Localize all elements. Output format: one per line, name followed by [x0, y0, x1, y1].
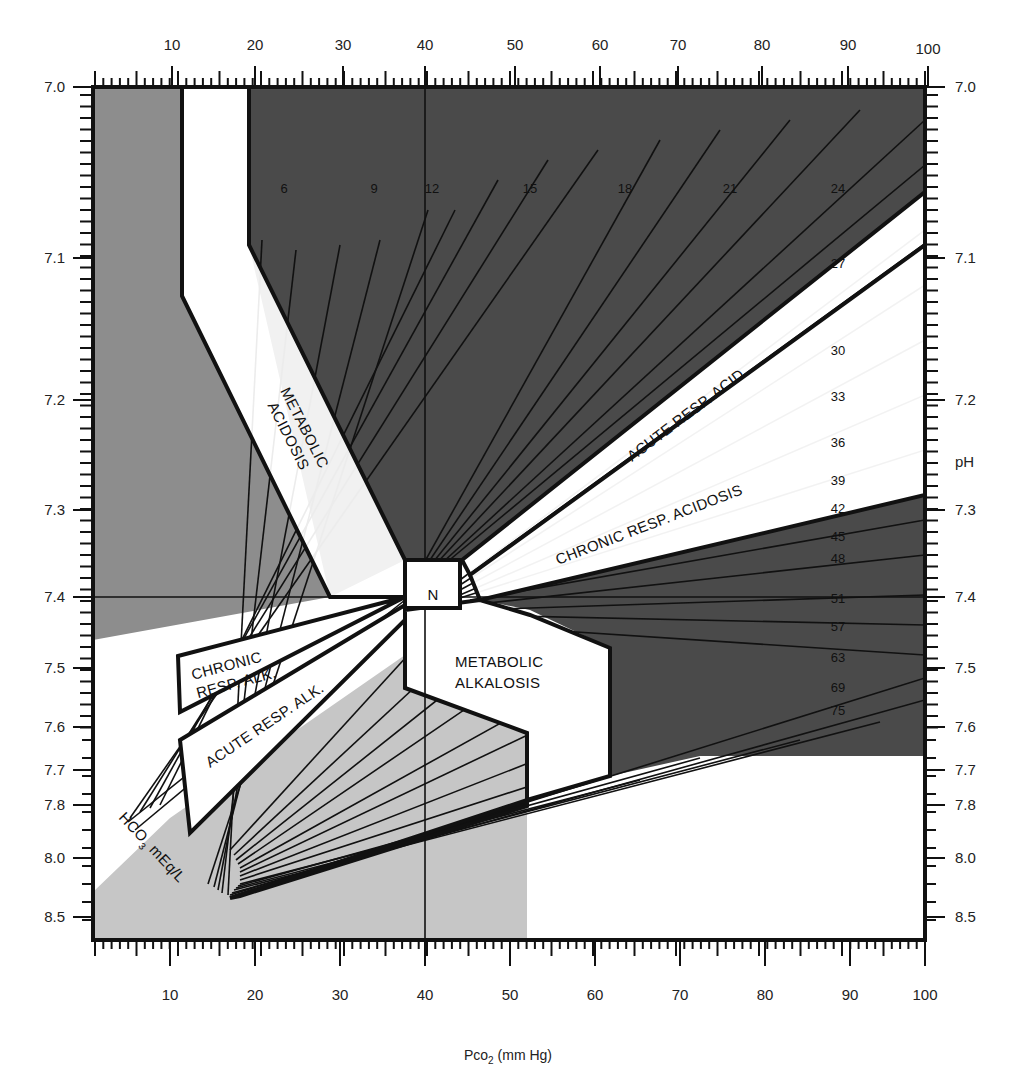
bottom-x-tick-label: 60	[587, 986, 604, 1003]
left-y-tick-label: 7.4	[44, 588, 65, 605]
top-x-tick-label: 90	[840, 36, 857, 53]
left-y-tick-label: 7.3	[44, 501, 65, 518]
isopleth-label: 9	[370, 181, 377, 196]
isopleth-label: 69	[831, 680, 845, 695]
left-y-tick-label: 8.0	[44, 849, 65, 866]
isopleth-label: 48	[831, 551, 845, 566]
right-y-tick-label: 7.1	[955, 249, 976, 266]
left-y-tick-label: 7.2	[44, 391, 65, 408]
left-y-tick-label: 8.5	[44, 908, 65, 925]
bottom-x-axis-labels: 10 20 30 40 50 60 70 80 90 100	[162, 986, 938, 1003]
bottom-x-tick-label: 70	[672, 986, 689, 1003]
right-y-tick-label: 7.3	[955, 501, 976, 518]
right-y-tick-label: 7.7	[955, 761, 976, 778]
top-x-tick-label: 30	[335, 36, 352, 53]
acid-base-nomogram: N 10 20 30 40 50 60 70 80 90 100 10 20 3…	[0, 0, 1017, 1082]
isopleth-label: 39	[831, 473, 845, 488]
right-y-tick-label: 7.5	[955, 659, 976, 676]
isopleth-label: 30	[831, 343, 845, 358]
isopleth-label: 51	[831, 591, 845, 606]
right-y-axis-title: pH	[955, 453, 974, 470]
right-y-tick-label: 7.2	[955, 391, 976, 408]
left-y-tick-label: 7.0	[44, 78, 65, 95]
top-x-tick-label: 40	[417, 36, 434, 53]
isopleth-label: 18	[618, 181, 632, 196]
svg-text:ALKALOSIS: ALKALOSIS	[455, 674, 540, 691]
right-y-tick-label: 8.0	[955, 849, 976, 866]
top-x-tick-label: 100	[915, 40, 940, 57]
top-x-axis-labels: 10 20 30 40 50 60 70 80 90 100	[164, 36, 941, 57]
right-y-tick-label: 7.4	[955, 588, 976, 605]
x-axis-title: Pco2 (mm Hg)	[464, 1047, 552, 1066]
isopleth-label: 57	[831, 619, 845, 634]
left-y-tick-label: 7.7	[44, 761, 65, 778]
top-x-tick-label: 10	[164, 36, 181, 53]
bottom-x-tick-label: 10	[162, 986, 179, 1003]
isopleth-label: 12	[425, 181, 439, 196]
top-x-tick-label: 60	[592, 36, 609, 53]
top-x-tick-label: 70	[670, 36, 687, 53]
bottom-x-tick-label: 100	[912, 986, 937, 1003]
isopleth-label: 6	[280, 181, 287, 196]
right-y-tick-label: 8.5	[955, 908, 976, 925]
bottom-x-tick-label: 90	[842, 986, 859, 1003]
right-y-tick-label: 7.0	[955, 78, 976, 95]
isopleth-label: 15	[523, 181, 537, 196]
isopleth-label: 75	[831, 703, 845, 718]
bottom-x-tick-label: 80	[757, 986, 774, 1003]
isopleth-label: 21	[723, 181, 737, 196]
top-x-tick-label: 20	[247, 36, 264, 53]
top-x-tick-label: 50	[507, 36, 524, 53]
left-y-tick-label: 7.6	[44, 718, 65, 735]
isopleth-label: 45	[831, 529, 845, 544]
right-y-axis-labels: 7.0 7.1 7.2 pH 7.3 7.4 7.5 7.6 7.7 7.8 8…	[955, 78, 976, 925]
isopleth-label: 24	[831, 181, 845, 196]
isopleth-label: 36	[831, 435, 845, 450]
bottom-x-tick-label: 50	[502, 986, 519, 1003]
normal-label: N	[427, 586, 438, 603]
isopleth-label: 33	[831, 389, 845, 404]
bottom-x-tick-label: 40	[417, 986, 434, 1003]
left-y-tick-label: 7.1	[44, 249, 65, 266]
bottom-x-tick-label: 30	[332, 986, 349, 1003]
svg-text:METABOLIC: METABOLIC	[455, 653, 543, 670]
top-x-tick-label: 80	[754, 36, 771, 53]
isopleth-label: 27	[831, 256, 845, 271]
left-y-axis-labels: 7.0 7.1 7.2 7.3 7.4 7.5 7.6 7.7 7.8 8.0 …	[44, 78, 65, 925]
right-y-tick-label: 7.8	[955, 796, 976, 813]
isopleth-label: 42	[831, 501, 845, 516]
bottom-x-tick-label: 20	[247, 986, 264, 1003]
isopleth-label: 63	[831, 650, 845, 665]
right-y-tick-label: 7.6	[955, 718, 976, 735]
left-y-tick-label: 7.8	[44, 796, 65, 813]
left-y-tick-label: 7.5	[44, 659, 65, 676]
